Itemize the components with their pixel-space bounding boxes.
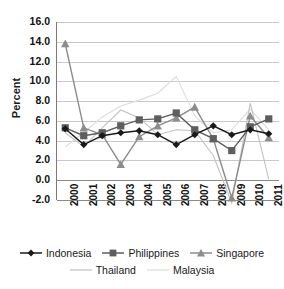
- data-point: [210, 135, 217, 142]
- data-point: [191, 103, 199, 111]
- data-point: [173, 141, 180, 148]
- data-point: [210, 122, 217, 129]
- legend-marker-diamond: [20, 247, 42, 259]
- legend-item-malaysia[interactable]: Malaysia: [147, 264, 214, 276]
- legend-item-philippines[interactable]: Philippines: [102, 247, 179, 259]
- data-point: [265, 115, 272, 122]
- data-point: [80, 124, 88, 132]
- data-point: [173, 109, 180, 116]
- legend-label: Singapore: [216, 247, 264, 259]
- legend-label: Philippines: [128, 247, 179, 259]
- data-point: [61, 40, 69, 48]
- legend-item-indonesia[interactable]: Indonesia: [20, 247, 92, 259]
- legend-label: Indonesia: [46, 247, 92, 259]
- data-point: [117, 129, 124, 136]
- data-point: [228, 131, 235, 138]
- data-point: [265, 130, 272, 137]
- legend-marker-line: [70, 264, 92, 276]
- legend-item-thailand[interactable]: Thailand: [70, 264, 136, 276]
- data-point: [228, 147, 235, 154]
- data-point: [154, 115, 161, 122]
- series-malaysia: [65, 76, 269, 146]
- legend-marker-triangle: [190, 247, 212, 259]
- series-thailand: [65, 103, 269, 203]
- chart-container: Percent 16.014.012.010.08.06.04.02.00.0-…: [0, 0, 284, 289]
- data-point: [80, 132, 87, 139]
- data-point: [136, 116, 143, 123]
- data-point: [117, 160, 125, 168]
- chart-legend: IndonesiaPhilippinesSingapore ThailandMa…: [0, 244, 284, 278]
- series-singapore: [61, 40, 273, 202]
- series-indonesia: [62, 122, 273, 148]
- legend-marker-square: [102, 247, 124, 259]
- legend-label: Thailand: [96, 264, 136, 276]
- legend-item-singapore[interactable]: Singapore: [190, 247, 264, 259]
- data-point: [117, 122, 124, 129]
- data-point: [154, 122, 162, 130]
- legend-marker-line: [147, 264, 169, 276]
- legend-row-secondary: ThailandMalaysia: [0, 261, 284, 278]
- data-point: [136, 127, 143, 134]
- legend-label: Malaysia: [173, 264, 214, 276]
- legend-row-primary: IndonesiaPhilippinesSingapore: [0, 244, 284, 261]
